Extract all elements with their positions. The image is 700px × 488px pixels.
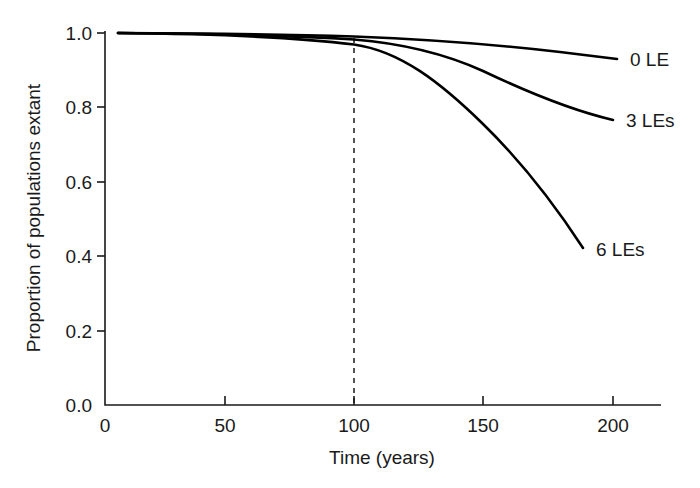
y-tick-label-0.4: 0.4 xyxy=(66,246,93,267)
x-tick-label-200: 200 xyxy=(597,415,629,436)
y-tick-label-1.0: 1.0 xyxy=(66,23,92,44)
x-axis-title: Time (years) xyxy=(329,447,435,468)
y-tick-label-0.8: 0.8 xyxy=(66,97,92,118)
x-tick-label-50: 50 xyxy=(214,415,235,436)
x-tick-label-100: 100 xyxy=(338,415,370,436)
y-tick-label-0.0: 0.0 xyxy=(66,395,92,416)
series-label-0-le: 0 LE xyxy=(630,49,669,70)
series-label-6-les: 6 LEs xyxy=(596,239,645,260)
series-label-3-les: 3 LEs xyxy=(626,110,675,131)
figure-container: 1.0 0.8 0.6 0.4 0.2 0.0 0 50 100 150 200… xyxy=(0,0,700,488)
line-chart: 1.0 0.8 0.6 0.4 0.2 0.0 0 50 100 150 200… xyxy=(0,0,700,488)
x-tick-label-150: 150 xyxy=(467,415,499,436)
y-axis-title: Proportion of populations extant xyxy=(23,83,44,352)
y-tick-label-0.2: 0.2 xyxy=(66,321,92,342)
x-tick-label-0: 0 xyxy=(100,415,111,436)
y-tick-label-0.6: 0.6 xyxy=(66,172,92,193)
